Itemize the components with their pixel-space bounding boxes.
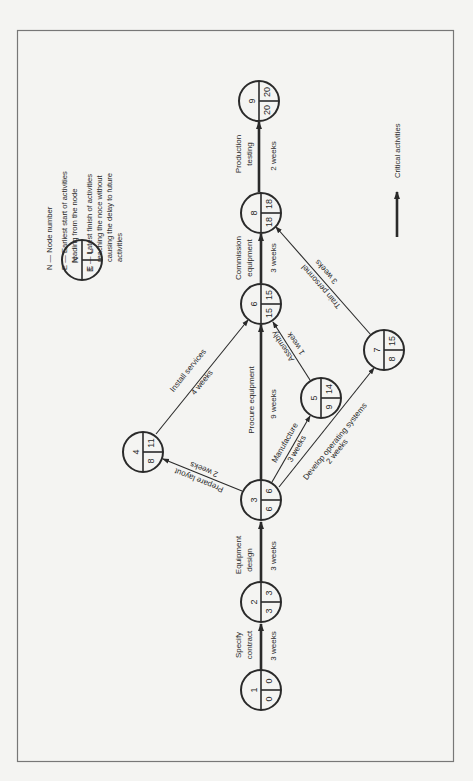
- node-number: 2: [249, 599, 259, 604]
- label-duration: 3 weeks: [269, 243, 278, 272]
- label-duration: 3 weeks: [269, 631, 278, 660]
- label-equipment-design-l2: design: [245, 548, 254, 572]
- node-2: 2 3 3: [241, 582, 281, 622]
- legend-line-n: N — Node number: [45, 206, 54, 270]
- legend-line-e1: E — Earliest start of activities: [60, 171, 69, 270]
- label-equipment-design-l1: Equipment: [234, 535, 243, 574]
- node-number: 1: [249, 687, 259, 692]
- label-procure-equipment: Procure equipment: [247, 365, 256, 433]
- node-latest: 18: [264, 199, 274, 209]
- legend-line-e2: leading from the node: [70, 189, 79, 262]
- label-commission-equipment-l2: equipment: [245, 239, 254, 277]
- label-duration: 4 weeks: [189, 368, 214, 396]
- legend-line-l2: reaching the noce without: [95, 175, 104, 262]
- node-1: 1 0 0: [241, 670, 281, 710]
- node-9: 9 20 20: [239, 81, 279, 121]
- node-number: 5: [309, 395, 319, 400]
- legend-text: N — Node number E — Earliest start of ac…: [45, 171, 124, 270]
- node-earliest: 18: [264, 217, 274, 227]
- node-earliest: 20: [262, 105, 272, 115]
- label-duration: 2 weeks: [269, 141, 278, 170]
- label-production-testing-l1: Production: [234, 135, 243, 173]
- label-specify-contract-l1: Specify: [234, 632, 243, 658]
- network-diagram: 1 0 0 2 3 3 3 6 6 4 8 11 5 9 14: [0, 0, 473, 781]
- node-number: 3: [249, 497, 259, 502]
- node-5: 5 9 14: [301, 378, 341, 418]
- label-duration: 9 weeks: [269, 389, 278, 418]
- label-production-testing-l2: testing: [245, 142, 254, 166]
- node-latest: 15: [387, 336, 397, 346]
- node-earliest: 8: [146, 458, 156, 463]
- node-8: 8 18 18: [241, 193, 281, 233]
- node-earliest: 0: [264, 696, 274, 701]
- node-earliest: 8: [387, 356, 397, 361]
- node-latest: 20: [262, 87, 272, 97]
- node-latest: 15: [264, 290, 274, 300]
- node-number: 8: [249, 210, 259, 215]
- node-latest: 6: [264, 488, 274, 493]
- arrow-7-8: [276, 227, 371, 335]
- node-latest: 0: [264, 678, 274, 683]
- legend-line-l4: activities: [115, 233, 124, 262]
- node-number: 9: [247, 98, 257, 103]
- node-earliest: 6: [264, 506, 274, 511]
- node-earliest: 3: [264, 608, 274, 613]
- critical-key: Critical activities: [393, 123, 402, 237]
- node-latest: 14: [324, 384, 334, 394]
- node-earliest: 9: [324, 404, 334, 409]
- node-6: 6 15 15: [241, 284, 281, 324]
- label-duration: 3 weeks: [269, 541, 278, 570]
- node-earliest: 15: [264, 308, 274, 318]
- node-3: 3 6 6: [241, 480, 281, 520]
- node-7: 7 8 15: [364, 330, 404, 370]
- node-number: 7: [372, 347, 382, 352]
- node-4: 4 8 11: [123, 432, 163, 472]
- label-commission-equipment-l1: Commission: [234, 236, 243, 280]
- legend-line-l1: L — Latest finish of activities: [85, 174, 94, 270]
- node-latest: 3: [264, 590, 274, 595]
- label-specify-contract-l2: contract: [245, 630, 254, 659]
- node-latest: 11: [146, 438, 156, 447]
- node-number: 4: [131, 449, 141, 454]
- legend-line-l3: causing the delay to future: [105, 173, 114, 262]
- critical-label: Critical activities: [393, 123, 402, 178]
- node-number: 6: [249, 301, 259, 306]
